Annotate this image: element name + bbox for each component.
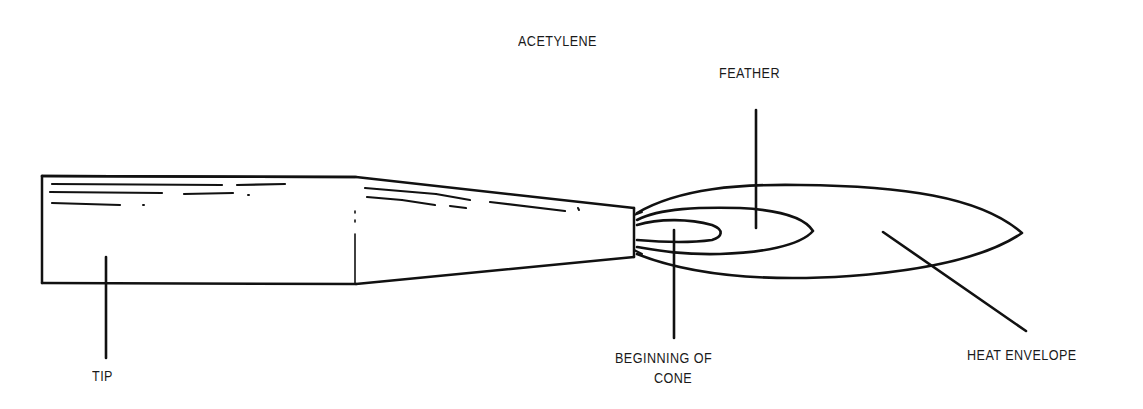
acetylene-title: ACETYLENE — [518, 33, 597, 50]
tip-label: TIP — [92, 368, 113, 385]
heat-envelope-leader-line — [883, 232, 1026, 331]
flame-diagram: ACETYLENE FEATHER TIP BEGINNING OF CONE … — [0, 0, 1143, 409]
feather-outline — [637, 208, 813, 254]
heat-envelope-label: HEAT ENVELOPE — [967, 347, 1077, 364]
beginning-of-cone-label-line1: BEGINNING OF — [615, 350, 712, 367]
heat-envelope-outline — [637, 185, 1022, 278]
feather-label: FEATHER — [719, 65, 780, 82]
flame — [634, 185, 1022, 278]
inner-cone-outline — [637, 220, 721, 242]
torch-tip-body — [42, 176, 634, 284]
beginning-of-cone-label-line2: CONE — [654, 370, 692, 387]
